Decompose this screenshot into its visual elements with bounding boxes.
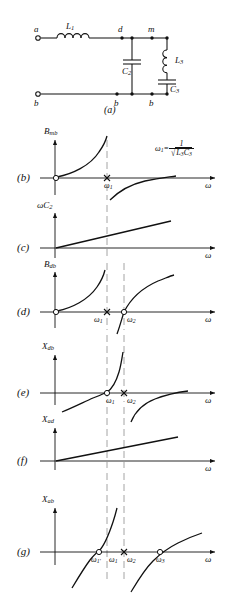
node-m-dot xyxy=(150,36,153,39)
plot-Bmb-tick-omega1: ω1 xyxy=(104,181,113,190)
plot-Xab-tick-omega2: ω2 xyxy=(127,555,136,564)
plot-Xab-tick-omega1prime: ω1' xyxy=(91,555,101,564)
plot-Bdb-branch-1 xyxy=(57,270,105,311)
plot-Xdb-ylabel: Xdb xyxy=(42,341,54,351)
plot-Xdb-tick-omega1: ω1 xyxy=(106,396,115,405)
marker-zero-origin xyxy=(53,309,58,314)
plot-Xdb-tick-omega2: ω2 xyxy=(127,396,136,405)
plot-Xab-tick-omega1: ω1 xyxy=(109,555,118,564)
figure-svg xyxy=(0,0,225,610)
plot-Xdb-xlabel: ω xyxy=(205,395,211,405)
plot-omegaC2 xyxy=(40,213,215,258)
node-d-label: d xyxy=(118,24,123,34)
terminal-a-label: a xyxy=(34,24,39,34)
inductor-L1-symbol xyxy=(57,34,89,38)
plot-Xdb xyxy=(40,352,215,422)
capacitor-C2-label: C2 xyxy=(122,66,131,76)
plot-Xdb-branch-2 xyxy=(131,391,188,422)
circuit-caption: (a) xyxy=(104,104,116,115)
node-d2-dot xyxy=(130,36,133,39)
plot-Bmb-branch-2 xyxy=(110,176,176,200)
plot-Xab-branch-1 xyxy=(72,508,117,588)
node-b-right-dot xyxy=(150,92,153,95)
node-m2-dot xyxy=(165,36,168,39)
plot-Bdb-xlabel: ω xyxy=(205,314,211,324)
plot-Bmb-branch-1 xyxy=(57,136,107,177)
inductor-L3-symbol xyxy=(163,50,167,73)
plot-Bdb-branch-2 xyxy=(117,275,174,334)
terminal-a-circle xyxy=(36,36,41,41)
plot-Xab-ylabel: Xab xyxy=(42,494,54,504)
marker-zero-omega2 xyxy=(121,309,126,314)
panel-letter-b: (b) xyxy=(17,171,30,183)
plot-Xad-ylabel: Xad xyxy=(42,414,54,424)
terminal-b-left-label: b xyxy=(34,98,39,108)
marker-zero-omega1 xyxy=(104,390,109,395)
panel-letter-f: (f) xyxy=(17,454,27,466)
plot-Bdb-tick-omega1: ω1 xyxy=(94,315,103,324)
marker-zero-omega3 xyxy=(157,549,162,554)
plot-omegaC2-xlabel: ω xyxy=(205,250,211,260)
plot-Xab-xlabel: ω xyxy=(205,554,211,564)
plot-Bdb-tick-omega2: ω2 xyxy=(127,315,136,324)
circuit-diagram xyxy=(36,34,176,97)
plot-Bmb-ylabel: Bmb xyxy=(44,126,57,136)
capacitor-C3-label: C3 xyxy=(170,84,179,94)
figure-root: a b b b d m L1 C2 L3 C3 (a) ω1=1√L3C3 (b… xyxy=(0,0,225,610)
plot-Bmb-xlabel: ω xyxy=(205,180,211,190)
inductor-L3-label: L3 xyxy=(175,55,183,65)
formula-omega1: ω1=1√L3C3 xyxy=(155,140,194,158)
node-b-c2-dot xyxy=(130,92,133,95)
panel-letter-d: (d) xyxy=(17,305,30,317)
plot-Xab xyxy=(40,508,215,592)
node-b-mid-dot xyxy=(115,92,118,95)
marker-zero-origin xyxy=(53,175,58,180)
plot-omegaC2-ylabel: ωC2 xyxy=(37,200,53,210)
plot-Xad-xlabel: ω xyxy=(205,463,211,473)
inductor-L1-label: L1 xyxy=(66,21,74,31)
plot-Xad xyxy=(40,428,215,470)
node-b-c3-dot xyxy=(165,92,168,95)
panel-letter-c: (c) xyxy=(17,241,29,253)
panel-letter-e: (e) xyxy=(17,386,29,398)
node-d-dot xyxy=(120,36,123,39)
node-b-right-label: b xyxy=(149,98,154,108)
node-m-label: m xyxy=(148,24,155,34)
plot-Bdb-ylabel: Bdb xyxy=(44,259,56,269)
plot-omegaC2-line xyxy=(56,221,171,248)
plot-Xab-tick-omega3: ω3 xyxy=(156,555,165,564)
plot-Xab-branch-2 xyxy=(131,533,202,592)
panel-letter-g: (g) xyxy=(17,545,30,557)
plot-Xad-line xyxy=(56,437,178,461)
marker-zero-omega1prime xyxy=(96,549,101,554)
plot-Bdb xyxy=(40,270,215,334)
terminal-b-circle xyxy=(36,92,41,97)
